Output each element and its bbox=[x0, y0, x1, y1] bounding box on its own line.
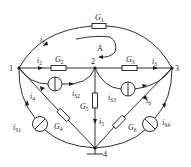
resistor-g5 bbox=[93, 93, 98, 108]
label-g2: G2 bbox=[55, 55, 64, 65]
current-source-is1 bbox=[33, 117, 48, 132]
circuit-diagram: A 1 2 3 4 G1 G2 G3 G4 G5 G6 i1 i2 i3 i4 … bbox=[0, 0, 191, 167]
resistor-g2 bbox=[51, 66, 66, 71]
node-1 bbox=[17, 66, 20, 69]
arrow-i5-icon bbox=[93, 119, 97, 124]
resistor-g1 bbox=[92, 24, 106, 29]
node-label-4: 4 bbox=[103, 150, 107, 159]
node-label-1: 1 bbox=[9, 64, 13, 73]
label-i2: i2 bbox=[37, 56, 42, 66]
current-source-is4 bbox=[143, 117, 158, 132]
node-label-3: 3 bbox=[175, 64, 179, 73]
current-source-is3 bbox=[121, 82, 135, 96]
node-4 bbox=[93, 146, 96, 149]
loop-a-arrowhead-icon bbox=[98, 55, 103, 59]
loop-a-arrow bbox=[76, 36, 116, 57]
label-i4: i4 bbox=[30, 92, 35, 102]
label-i1: i1 bbox=[40, 35, 45, 45]
arrow-i4-icon bbox=[40, 86, 45, 91]
loop-label: A bbox=[97, 44, 103, 53]
current-source-is2 bbox=[48, 77, 62, 91]
label-i3: i3 bbox=[152, 57, 157, 67]
label-is1: iS1 bbox=[13, 123, 21, 133]
arrow-i3-icon bbox=[153, 66, 158, 70]
label-g4: G4 bbox=[54, 122, 63, 132]
node-2 bbox=[93, 66, 96, 69]
resistor-g6 bbox=[112, 115, 125, 129]
node-3 bbox=[170, 66, 173, 69]
label-g1: G1 bbox=[95, 13, 104, 23]
label-i5: i5 bbox=[99, 117, 104, 127]
label-is2: iS2 bbox=[72, 89, 80, 99]
label-g6: G6 bbox=[128, 123, 137, 133]
label-g5: G5 bbox=[80, 102, 89, 112]
label-g3: G3 bbox=[126, 55, 135, 65]
node-label-2: 2 bbox=[91, 57, 95, 66]
arrow-i2-icon bbox=[38, 66, 43, 70]
label-is4: iS4 bbox=[162, 118, 170, 128]
resistor-g4 bbox=[57, 108, 70, 122]
resistor-g3 bbox=[122, 66, 137, 71]
arrow-is2-icon bbox=[69, 82, 74, 86]
label-i6: i6 bbox=[146, 96, 151, 106]
label-is3: iS3 bbox=[108, 93, 116, 103]
